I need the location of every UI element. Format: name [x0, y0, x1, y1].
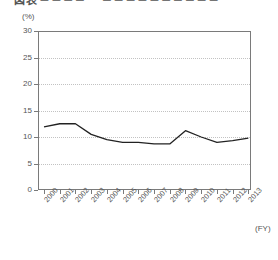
line-series-layer	[38, 31, 251, 190]
y-axis-tick-label: 5	[6, 159, 32, 168]
y-axis-tick-label: 0	[6, 185, 32, 194]
y-axis-tick-mark	[34, 58, 38, 59]
data-line	[44, 124, 248, 144]
y-axis-tick-mark	[34, 164, 38, 165]
x-axis-caption: (FY)	[255, 224, 271, 233]
y-axis-tick-label: 10	[6, 132, 32, 141]
y-axis-tick-mark	[34, 137, 38, 138]
y-axis-tick-mark	[34, 31, 38, 32]
chart-area: (FY) 05101520253020002001200220032004200…	[0, 0, 278, 260]
y-axis-tick-mark	[34, 111, 38, 112]
y-axis-tick-mark	[34, 84, 38, 85]
y-axis-tick-label: 30	[6, 26, 32, 35]
y-axis-tick-mark	[34, 190, 38, 191]
y-axis-tick-label: 25	[6, 53, 32, 62]
y-axis-tick-label: 15	[6, 106, 32, 115]
y-axis-tick-label: 20	[6, 79, 32, 88]
